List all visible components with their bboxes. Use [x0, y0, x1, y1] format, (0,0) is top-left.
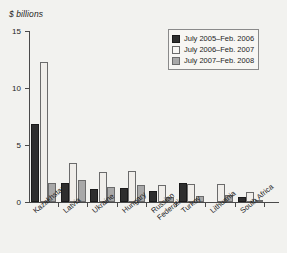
bar	[90, 189, 98, 202]
bar-group	[31, 31, 56, 202]
y-axis-tick	[25, 202, 29, 203]
bar	[61, 183, 69, 202]
y-axis-tick	[25, 31, 29, 32]
bar-group	[149, 31, 174, 202]
x-axis-tick	[205, 203, 206, 207]
bar-group	[208, 31, 233, 202]
x-axis-tick	[117, 203, 118, 207]
bar-group	[179, 31, 204, 202]
y-axis-tick-label: 5	[0, 141, 21, 150]
y-axis-tick-label: 0	[0, 198, 21, 207]
bar	[31, 124, 39, 202]
bar-chart-figure: $ billions 051015 July 2005–Feb. 2006 Ju…	[0, 0, 287, 253]
bar-group	[238, 31, 263, 202]
x-axis-tick	[264, 203, 265, 207]
bar-group	[120, 31, 145, 202]
bar	[149, 191, 157, 202]
bar-group	[61, 31, 86, 202]
x-axis-tick	[176, 203, 177, 207]
y-axis-tick-label: 10	[0, 84, 21, 93]
bar-group	[90, 31, 115, 202]
bar	[238, 197, 246, 202]
x-axis-tick	[235, 203, 236, 207]
x-axis-tick	[58, 203, 59, 207]
x-axis-tick	[87, 203, 88, 207]
y-axis-tick	[25, 145, 29, 146]
bar	[179, 183, 187, 202]
bar	[120, 188, 128, 202]
bar	[40, 62, 48, 202]
y-axis-tick	[25, 88, 29, 89]
x-axis-tick	[146, 203, 147, 207]
y-axis-ticks: 051015	[0, 0, 29, 253]
y-axis-tick-label: 15	[0, 27, 21, 36]
